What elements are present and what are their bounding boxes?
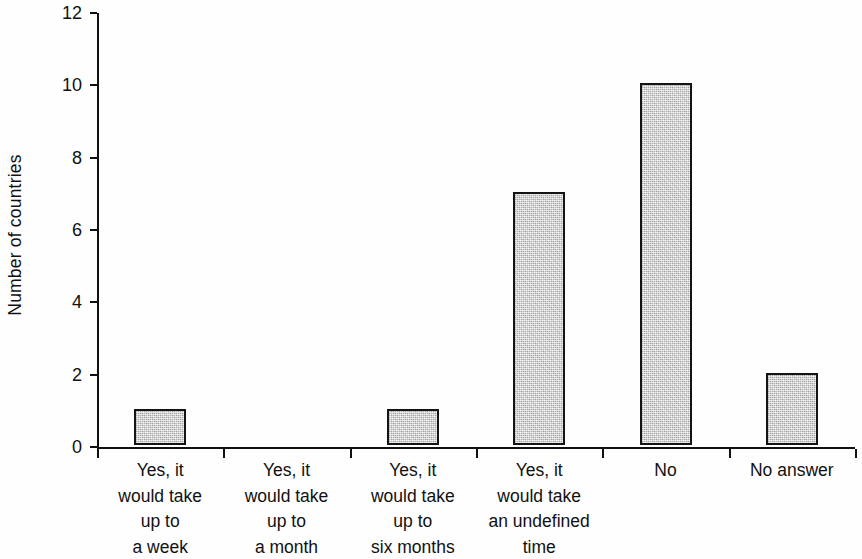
y-axis-tick: 12 [90,12,97,14]
y-axis-tick: 8 [90,157,97,159]
y-axis-tick: 0 [90,446,97,448]
y-axis-title: Number of countries [2,0,28,470]
bar [134,409,186,445]
x-axis-category-label-line: up to [223,509,349,535]
x-axis-tick [602,449,604,458]
y-axis-tick-label: 12 [62,4,82,22]
x-axis-category-label-line: Yes, it [97,458,223,484]
x-axis-tick [729,449,731,458]
x-axis-category-label-line: time [476,535,602,559]
x-axis-category-label-line: would take [223,484,349,510]
y-axis-tick-label: 0 [72,438,82,456]
y-axis-tick-label: 2 [72,366,82,384]
y-axis-tick: 4 [90,301,97,303]
x-axis-category-label-line: No [602,458,728,484]
bar [513,192,565,445]
y-axis-tick: 2 [90,374,97,376]
x-axis-category-label-line: a week [97,535,223,559]
y-axis-tick: 10 [90,84,97,86]
x-axis-category-label-line: Yes, it [223,458,349,484]
y-axis-tick-label: 4 [72,293,82,311]
bar-chart: Number of countries 024681012 Yes, itwou… [0,0,862,559]
x-axis-category-label-line: would take [476,484,602,510]
x-axis-category-label: No answer [729,458,855,484]
y-axis-tick-label: 6 [72,221,82,239]
x-axis-tick [350,449,352,458]
x-axis-category-label-line: No answer [729,458,855,484]
y-axis-tick-label: 10 [62,76,82,94]
bar [387,409,439,445]
y-axis-tick: 6 [90,229,97,231]
x-axis-category-label: Yes, itwould takeup tosix months [350,458,476,559]
x-axis-tick [223,449,225,458]
x-axis-category-label-line: up to [350,509,476,535]
x-axis-category-label: Yes, itwould takeup toa week [97,458,223,559]
plot-area: 024681012 [97,13,855,447]
x-axis-category-label: Yes, itwould takean undefinedtime [476,458,602,559]
x-axis-category-label-line: an undefined [476,509,602,535]
x-axis-category-label: No [602,458,728,484]
x-axis-category-label-line: would take [97,484,223,510]
x-axis-category-label-line: six months [350,535,476,559]
x-axis-category-label-line: Yes, it [476,458,602,484]
bar [766,373,818,445]
y-axis-line [97,13,99,449]
y-axis-tick-label: 8 [72,149,82,167]
x-axis-category-label-line: Yes, it [350,458,476,484]
x-axis-tick [476,449,478,458]
x-axis-category-label-line: a month [223,535,349,559]
x-axis-labels: Yes, itwould takeup toa weekYes, itwould… [97,458,855,559]
x-axis-tick [855,449,857,458]
x-axis-category-label-line: up to [97,509,223,535]
x-axis-category-label-line: would take [350,484,476,510]
x-axis-category-label: Yes, itwould takeup toa month [223,458,349,559]
bar [640,83,692,445]
x-axis-tick [97,449,99,458]
